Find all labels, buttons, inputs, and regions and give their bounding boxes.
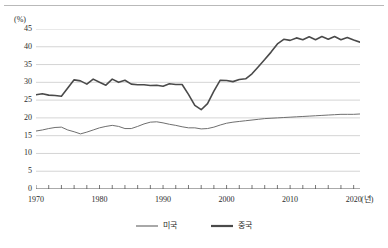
x-tick-label: 1980 [80,196,120,204]
legend-label-usa: 미국 [163,222,177,230]
y-tick-label: 40 [14,43,32,51]
series-line-usa [36,114,360,134]
y-tick-label: 30 [14,78,32,86]
y-tick-label: 20 [14,114,32,122]
chart-figure: (%) (년) 454035302520151050 1970198019902… [0,0,388,248]
legend-label-china: 중국 [238,222,252,230]
legend-item-usa: 미국 [136,222,177,230]
chart-legend: 미국 중국 [0,222,388,230]
y-tick-label: 10 [14,149,32,157]
x-tick-label: 1990 [143,196,183,204]
x-tick-label: 2020 [334,196,374,204]
plot-svg [36,29,360,189]
y-tick-label: 5 [14,167,32,175]
legend-line-china [211,223,233,229]
x-axis-ticks [36,185,354,189]
data-series-group [36,36,360,133]
x-tick-label: 2010 [270,196,310,204]
y-tick-label: 45 [14,25,32,33]
grid-lines [36,29,360,171]
series-line-china [36,36,360,109]
y-tick-label: 25 [14,96,32,104]
legend-line-usa [136,223,158,229]
y-axis-unit-label: (%) [14,16,26,24]
x-tick-label: 2000 [207,196,247,204]
top-rule [4,5,384,6]
y-tick-label: 0 [14,185,32,193]
y-tick-label: 15 [14,132,32,140]
legend-item-china: 중국 [211,222,252,230]
y-tick-label: 35 [14,61,32,69]
plot-area [36,29,360,189]
x-tick-label: 1970 [16,196,56,204]
